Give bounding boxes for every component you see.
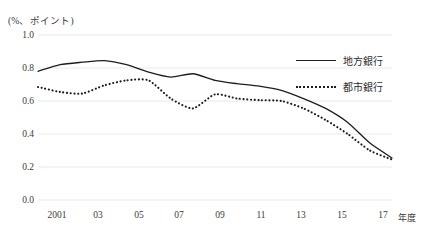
plot-area: [0, 0, 433, 243]
series-line-city-banks: [38, 79, 392, 159]
series-line-regional-banks: [38, 61, 392, 158]
data-series-layer: [38, 61, 392, 160]
line-chart: (%、ポイント) 1.0 0.8 0.6 0.4 0.2 0.0 2001 03…: [0, 0, 433, 243]
legend-label-city-banks: 都市銀行: [343, 79, 383, 94]
legend-swatch-dotted: [296, 86, 336, 88]
legend-label-regional-banks: 地方銀行: [343, 53, 383, 68]
gridlines: [38, 35, 392, 200]
legend-swatch-solid: [296, 60, 336, 61]
